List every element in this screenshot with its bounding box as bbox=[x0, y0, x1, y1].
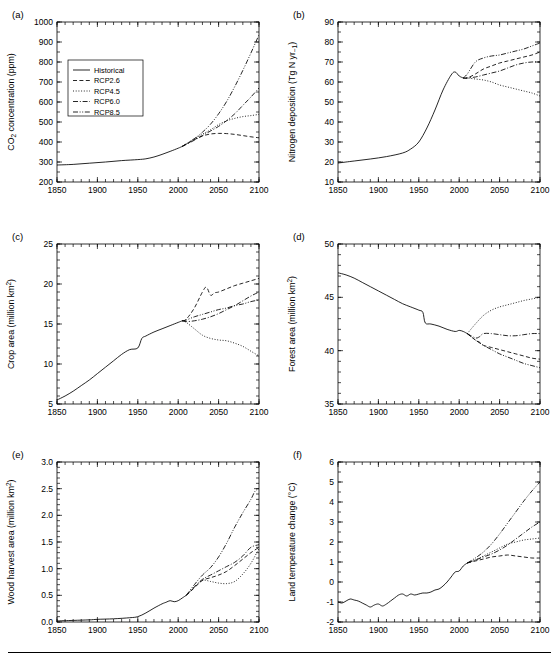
x-tick-label: 1950 bbox=[128, 407, 147, 417]
plot-frame bbox=[338, 22, 540, 182]
y-tick-label: 50 bbox=[325, 97, 335, 107]
series-line-rcp85 bbox=[463, 43, 540, 78]
panel-letter: (d) bbox=[293, 231, 305, 242]
series-line-rcp85 bbox=[467, 482, 540, 563]
y-tick-label: 20 bbox=[44, 279, 54, 289]
series-line-rcp85 bbox=[182, 35, 259, 147]
y-tick-label: 90 bbox=[325, 17, 335, 27]
y-tick-label: 300 bbox=[39, 157, 53, 167]
y-tick-label: 40 bbox=[325, 117, 335, 127]
x-tick-label: 1950 bbox=[409, 185, 428, 195]
y-tick-label: 50 bbox=[325, 239, 335, 249]
legend-label: RCP2.6 bbox=[94, 76, 120, 85]
y-tick-label: 2.0 bbox=[41, 510, 53, 520]
plot-svg: (c)185019001950200020502100510152025Crop… bbox=[0, 222, 278, 442]
x-tick-label: 2000 bbox=[169, 625, 188, 635]
panel-d: (d)18501900195020002050210035404550Fores… bbox=[281, 222, 559, 442]
plot-frame bbox=[338, 462, 540, 622]
series-line-rcp60 bbox=[467, 333, 540, 338]
y-tick-label: 3 bbox=[329, 517, 334, 527]
y-tick-label: 15 bbox=[44, 319, 54, 329]
panel-letter: (a) bbox=[12, 9, 24, 20]
y-tick-label: 70 bbox=[325, 57, 335, 67]
y-tick-label: 80 bbox=[325, 37, 335, 47]
series-line-historical bbox=[57, 321, 182, 400]
y-tick-label: 25 bbox=[44, 239, 54, 249]
x-tick-label: 2100 bbox=[531, 185, 550, 195]
x-tick-label: 1950 bbox=[409, 625, 428, 635]
legend-label: RCP4.5 bbox=[94, 87, 120, 96]
x-tick-label: 1900 bbox=[88, 625, 107, 635]
series-line-rcp60 bbox=[186, 545, 259, 596]
panel-e: (e)1850190019502000205021000.00.51.01.52… bbox=[0, 440, 278, 660]
y-tick-label: 35 bbox=[325, 399, 335, 409]
panel-letter: (c) bbox=[12, 231, 23, 242]
x-tick-label: 2050 bbox=[490, 407, 509, 417]
x-tick-label: 2000 bbox=[450, 625, 469, 635]
legend-label: RCP8.5 bbox=[94, 108, 120, 117]
series-line-rcp26 bbox=[182, 133, 259, 146]
y-tick-label: 40 bbox=[325, 346, 335, 356]
y-tick-label: 0.5 bbox=[41, 590, 53, 600]
series-line-rcp45 bbox=[186, 548, 259, 595]
x-tick-label: 1950 bbox=[128, 625, 147, 635]
panel-letter: (f) bbox=[293, 449, 302, 460]
y-tick-label: 0.0 bbox=[41, 617, 53, 627]
x-tick-label: 2100 bbox=[250, 185, 269, 195]
y-tick-label: 20 bbox=[325, 157, 335, 167]
x-tick-label: 2100 bbox=[250, 625, 269, 635]
y-axis-title: Forest area (million km2) bbox=[286, 276, 297, 372]
x-tick-label: 2000 bbox=[169, 185, 188, 195]
x-tick-label: 2000 bbox=[450, 185, 469, 195]
y-tick-label: 0 bbox=[329, 577, 334, 587]
plot-svg: (b)1850190019502000205021001020304050607… bbox=[281, 0, 559, 220]
series-line-historical bbox=[338, 563, 467, 607]
series-line-rcp60 bbox=[463, 62, 540, 78]
y-tick-label: 3.0 bbox=[41, 457, 53, 467]
legend-label: RCP6.0 bbox=[94, 97, 120, 106]
plot-frame bbox=[57, 462, 259, 622]
series-line-rcp45 bbox=[467, 297, 540, 333]
panel-b: (b)1850190019502000205021001020304050607… bbox=[281, 0, 559, 220]
plot-svg: (a)1850190019502000205021002003004005006… bbox=[0, 0, 278, 220]
series-line-historical bbox=[57, 595, 186, 621]
x-tick-label: 1900 bbox=[369, 625, 388, 635]
series-line-rcp26 bbox=[463, 52, 540, 78]
y-tick-label: 2 bbox=[329, 537, 334, 547]
y-tick-label: -2 bbox=[326, 617, 334, 627]
series-line-historical bbox=[57, 146, 182, 165]
plot-svg: (f)185019001950200020502100-2-10123456La… bbox=[281, 440, 559, 660]
series-line-rcp85 bbox=[182, 300, 259, 321]
figure-canvas: (a)1850190019502000205021002003004005006… bbox=[0, 0, 559, 660]
x-tick-label: 2100 bbox=[531, 625, 550, 635]
x-tick-label: 1900 bbox=[369, 185, 388, 195]
y-axis-title: Nitrogen deposition (Tg N yr−1) bbox=[287, 42, 298, 162]
y-tick-label: 600 bbox=[39, 97, 53, 107]
y-axis-title: Land temperature change (°C) bbox=[287, 482, 297, 601]
y-tick-label: 5 bbox=[48, 399, 53, 409]
x-tick-label: 1900 bbox=[369, 407, 388, 417]
footer-rule bbox=[8, 652, 551, 653]
y-tick-label: 1.5 bbox=[41, 537, 53, 547]
y-tick-label: 200 bbox=[39, 177, 53, 187]
x-tick-label: 2050 bbox=[490, 625, 509, 635]
x-tick-label: 2000 bbox=[169, 407, 188, 417]
x-tick-label: 2100 bbox=[531, 407, 550, 417]
x-tick-label: 2050 bbox=[209, 185, 228, 195]
x-tick-label: 2050 bbox=[209, 407, 228, 417]
series-line-rcp45 bbox=[182, 114, 259, 146]
x-tick-label: 1950 bbox=[409, 407, 428, 417]
y-axis-title: Crop area (million km2) bbox=[5, 279, 16, 369]
series-line-rcp45 bbox=[182, 321, 259, 356]
x-tick-label: 2100 bbox=[250, 407, 269, 417]
y-tick-label: 4 bbox=[329, 497, 334, 507]
y-tick-label: 400 bbox=[39, 137, 53, 147]
series-line-rcp85 bbox=[186, 489, 259, 596]
y-tick-label: 6 bbox=[329, 457, 334, 467]
x-tick-label: 2050 bbox=[209, 625, 228, 635]
x-tick-label: 2000 bbox=[450, 407, 469, 417]
y-tick-label: 1 bbox=[329, 557, 334, 567]
series-line-historical bbox=[338, 72, 463, 163]
y-tick-label: 2.5 bbox=[41, 484, 53, 494]
x-tick-label: 1900 bbox=[88, 407, 107, 417]
